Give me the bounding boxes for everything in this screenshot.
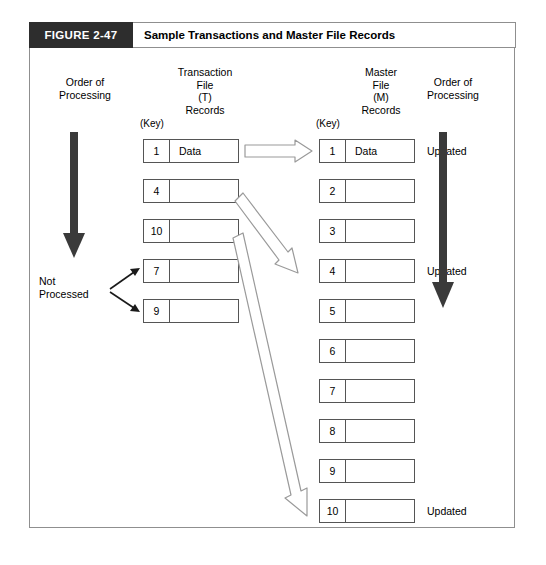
record-data [346, 220, 414, 242]
transaction-record-row[interactable]: 9 [143, 299, 239, 323]
record-data [346, 260, 414, 282]
record-key: 5 [320, 300, 346, 322]
master-record-row[interactable]: 9 [319, 459, 415, 483]
master-record-row[interactable]: 7 [319, 379, 415, 403]
record-data [170, 260, 238, 282]
master-status-label: Updated [427, 145, 467, 157]
record-key: 10 [320, 500, 346, 522]
record-key: 7 [320, 380, 346, 402]
right-order-arrow-icon [432, 132, 454, 308]
match-arrow-t4-m4-icon [235, 193, 298, 273]
record-key: 4 [144, 180, 170, 202]
transaction-file-heading: Transaction File (T) Records [150, 66, 260, 116]
master-record-row[interactable]: 6 [319, 339, 415, 363]
master-record-row[interactable]: 3 [319, 219, 415, 243]
match-arrow-t1-m1-icon [245, 140, 312, 162]
transaction-record-row[interactable]: 7 [143, 259, 239, 283]
record-data [346, 500, 414, 522]
record-key: 9 [320, 460, 346, 482]
record-key: 8 [320, 420, 346, 442]
master-record-row[interactable]: 5 [319, 299, 415, 323]
record-data [346, 300, 414, 322]
record-key: 2 [320, 180, 346, 202]
right-order-of-processing-label: Order of Processing [408, 76, 498, 101]
record-data [346, 340, 414, 362]
master-record-row[interactable]: 8 [319, 419, 415, 443]
record-key: 7 [144, 260, 170, 282]
master-record-row[interactable]: 10 [319, 499, 415, 523]
master-key-label: (Key) [316, 118, 340, 129]
record-data: Data [170, 140, 238, 162]
master-status-label: Updated [427, 505, 467, 517]
transaction-record-row[interactable]: 4 [143, 179, 239, 203]
left-order-arrow-icon [63, 132, 85, 258]
record-data [346, 420, 414, 442]
master-record-row[interactable]: 1 Data [319, 139, 415, 163]
match-arrow-t10-m10-icon [233, 233, 307, 516]
record-data [170, 220, 238, 242]
record-key: 1 [144, 140, 170, 162]
master-record-row[interactable]: 4 [319, 259, 415, 283]
record-data: Data [346, 140, 414, 162]
figure-container: FIGURE 2-47 Sample Transactions and Mast… [29, 29, 515, 528]
record-data [170, 180, 238, 202]
figure-canvas: Transaction File (T) Records Master File… [30, 30, 514, 527]
transaction-key-label: (Key) [140, 118, 164, 129]
record-key: 9 [144, 300, 170, 322]
master-record-row[interactable]: 2 [319, 179, 415, 203]
record-data [346, 460, 414, 482]
transaction-record-row[interactable]: 1 Data [143, 139, 239, 163]
master-status-label: Updated [427, 265, 467, 277]
record-key: 6 [320, 340, 346, 362]
record-key: 3 [320, 220, 346, 242]
left-order-of-processing-label: Order of Processing [40, 76, 130, 101]
record-data [346, 180, 414, 202]
record-data [170, 300, 238, 322]
not-processed-label: Not Processed [39, 275, 109, 300]
record-key: 4 [320, 260, 346, 282]
transaction-record-row[interactable]: 10 [143, 219, 239, 243]
not-processed-arrow-icon [110, 268, 140, 312]
record-key: 10 [144, 220, 170, 242]
record-data [346, 380, 414, 402]
record-key: 1 [320, 140, 346, 162]
